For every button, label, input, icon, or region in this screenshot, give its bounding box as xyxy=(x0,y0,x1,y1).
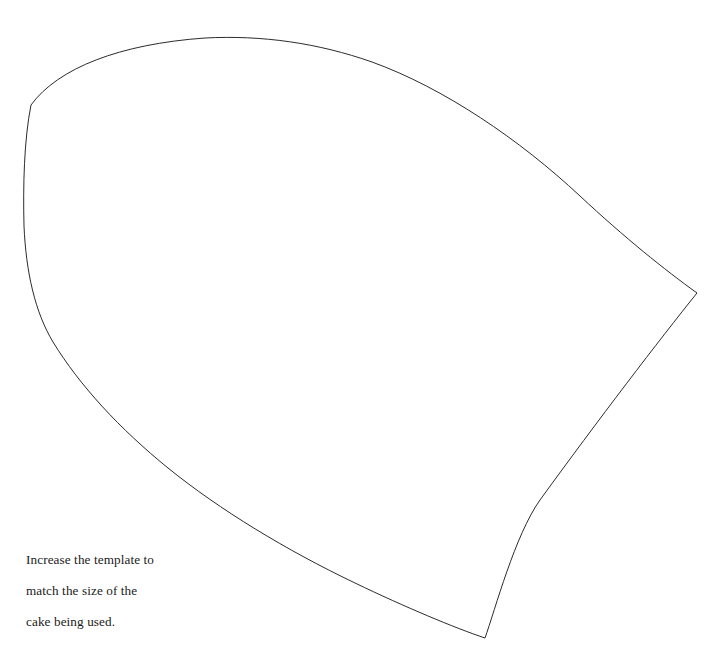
template-canvas: Increase the template to match the size … xyxy=(0,0,720,665)
caption-line-3: cake being used. xyxy=(26,614,216,630)
caption-line-1: Increase the template to xyxy=(26,552,216,568)
instruction-caption: Increase the template to match the size … xyxy=(26,536,216,645)
caption-line-2: match the size of the xyxy=(26,583,216,599)
